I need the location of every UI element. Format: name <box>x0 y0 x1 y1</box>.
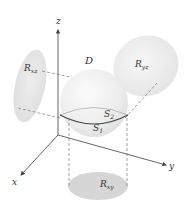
y-axis-label: y <box>168 161 175 171</box>
region-projection-diagram: z x y D S2 S1 Rxz Ryz Rxy <box>0 0 184 212</box>
surface-s2-sub: 2 <box>109 113 114 120</box>
projection-xz-sub: xz <box>31 67 38 74</box>
projection-region-xy <box>68 172 128 200</box>
z-axis-label: z <box>55 16 61 26</box>
y-axis <box>58 135 166 165</box>
x-axis-label: x <box>12 177 17 187</box>
solid-label-d: D <box>84 55 93 66</box>
projection-yz-sub: yz <box>141 63 149 71</box>
x-axis <box>21 135 58 175</box>
projection-region-xz <box>8 47 53 126</box>
projection-xy-sub: xy <box>107 183 114 191</box>
surface-s1-sub: 1 <box>99 127 103 134</box>
